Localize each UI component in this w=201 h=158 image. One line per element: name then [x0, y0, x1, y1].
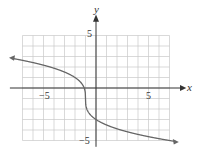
function-curve — [12, 58, 176, 141]
y-axis-label: y — [94, 4, 99, 15]
y-tick-label-5: 5 — [87, 29, 92, 39]
y-tick-label-neg5: −5 — [79, 136, 90, 146]
x-axis-arrow-icon — [180, 85, 186, 91]
curve-left-arrow-icon — [9, 55, 15, 61]
curve-right-arrow-icon — [173, 139, 179, 145]
x-tick-label-5: 5 — [146, 91, 151, 101]
graph-canvas — [0, 0, 201, 158]
x-tick-label-neg5: −5 — [39, 91, 50, 101]
y-axis-arrow-icon — [93, 15, 99, 22]
x-axis-label: x — [187, 82, 192, 93]
